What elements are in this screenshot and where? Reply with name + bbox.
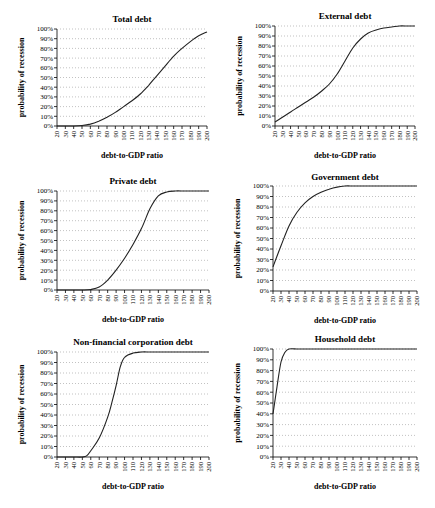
y-tick-label: 60% [256, 224, 269, 232]
x-tick-label: 140 [365, 296, 372, 306]
y-tick-label: 0% [44, 286, 54, 294]
chart-title: Non-financial corporation debt [73, 337, 193, 347]
x-tick-label: 180 [396, 131, 403, 141]
y-tick-label: 60% [40, 227, 53, 235]
x-tick-label: 50 [295, 131, 302, 138]
x-tick-label: 100 [334, 131, 341, 141]
chart-panel: Total debt0%10%20%30%40%50%60%70%80%90%1… [17, 14, 210, 160]
x-tick-label: 180 [397, 296, 404, 306]
x-tick-label: 110 [341, 131, 348, 141]
x-tick-label: 90 [112, 462, 119, 469]
recession-probability-curve [273, 186, 417, 267]
x-tick-label: 200 [411, 131, 418, 141]
y-tick-label: 0% [260, 287, 270, 295]
x-tick-label: 160 [380, 131, 387, 141]
x-tick-label: 130 [146, 295, 153, 305]
x-tick-label: 50 [79, 462, 86, 469]
y-axis-title: probability of recession [17, 200, 26, 280]
y-tick-label: 20% [40, 267, 53, 275]
x-tick-label: 120 [349, 131, 356, 141]
y-tick-label: 100% [253, 182, 270, 190]
x-tick-label: 60 [87, 462, 94, 469]
x-tick-label: 80 [104, 295, 111, 302]
x-tick-label: 190 [404, 131, 411, 141]
x-tick-label: 120 [137, 131, 144, 141]
y-tick-label: 30% [40, 422, 53, 430]
x-tick-label: 190 [195, 131, 202, 141]
chart-panel: Non-financial corporation debt0%10%20%30… [17, 337, 212, 491]
chart-title: External debt [319, 11, 372, 21]
y-tick-label: 10% [40, 113, 53, 121]
x-tick-label: 40 [70, 462, 77, 469]
x-tick-label: 180 [188, 462, 195, 472]
x-tick-label: 160 [381, 296, 388, 306]
x-tick-label: 140 [153, 131, 160, 141]
x-tick-label: 50 [78, 131, 85, 138]
x-tick-label: 140 [155, 295, 162, 305]
y-tick-label: 40% [40, 247, 53, 255]
y-tick-label: 0% [44, 453, 54, 461]
x-tick-label: 40 [70, 295, 77, 302]
x-tick-label: 20 [53, 131, 60, 138]
y-tick-label: 70% [40, 217, 53, 225]
x-tick-label: 30 [62, 131, 69, 138]
x-tick-label: 200 [203, 131, 210, 141]
chart-title: Private debt [109, 176, 156, 186]
x-tick-label: 90 [325, 296, 332, 303]
x-tick-label: 30 [62, 462, 69, 469]
x-tick-label: 20 [271, 131, 278, 138]
x-tick-label: 70 [309, 296, 316, 303]
y-tick-label: 20% [40, 432, 53, 440]
x-tick-label: 70 [309, 462, 316, 469]
x-tick-label: 50 [79, 295, 86, 302]
x-tick-label: 200 [205, 295, 212, 305]
y-tick-label: 10% [40, 443, 53, 451]
x-tick-label: 190 [197, 295, 204, 305]
y-tick-label: 100% [255, 22, 272, 30]
y-tick-label: 30% [256, 421, 269, 429]
x-tick-label: 100 [121, 295, 128, 305]
x-tick-label: 150 [373, 462, 380, 472]
x-tick-label: 180 [187, 131, 194, 141]
y-tick-label: 70% [40, 380, 53, 388]
x-tick-label: 100 [333, 296, 340, 306]
chart-panel: External debt0%10%20%30%40%50%60%70%80%9… [235, 11, 418, 160]
x-tick-label: 160 [172, 462, 179, 472]
y-tick-label: 0% [262, 122, 272, 130]
y-tick-label: 90% [256, 356, 269, 364]
x-tick-label: 170 [180, 295, 187, 305]
y-tick-label: 90% [256, 193, 269, 201]
x-tick-label: 170 [180, 462, 187, 472]
y-tick-label: 60% [40, 64, 53, 72]
y-tick-label: 60% [258, 62, 271, 70]
x-tick-label: 170 [389, 296, 396, 306]
x-tick-label: 170 [178, 131, 185, 141]
x-axis-title: debt-to-GDP ratio [314, 151, 376, 160]
x-tick-label: 190 [405, 296, 412, 306]
x-tick-label: 190 [197, 462, 204, 472]
x-tick-label: 20 [269, 296, 276, 303]
y-tick-label: 50% [258, 72, 271, 80]
x-tick-label: 90 [112, 131, 119, 138]
y-tick-label: 10% [40, 277, 53, 285]
x-tick-label: 160 [170, 131, 177, 141]
x-tick-label: 110 [129, 295, 136, 305]
y-tick-label: 50% [40, 237, 53, 245]
x-tick-label: 80 [104, 462, 111, 469]
y-tick-label: 20% [40, 103, 53, 111]
x-tick-label: 200 [413, 462, 420, 472]
x-tick-label: 40 [287, 131, 294, 138]
x-tick-label: 130 [357, 131, 364, 141]
x-tick-label: 140 [155, 462, 162, 472]
chart-title: Household debt [315, 334, 375, 344]
y-tick-label: 70% [40, 55, 53, 63]
x-tick-label: 130 [146, 462, 153, 472]
y-tick-label: 10% [258, 112, 271, 120]
x-tick-label: 110 [128, 131, 135, 141]
y-tick-label: 20% [258, 102, 271, 110]
x-tick-label: 140 [365, 131, 372, 141]
y-tick-label: 90% [40, 359, 53, 367]
x-tick-label: 150 [372, 131, 379, 141]
y-axis-title: probability of recession [17, 37, 26, 117]
x-tick-label: 190 [405, 462, 412, 472]
